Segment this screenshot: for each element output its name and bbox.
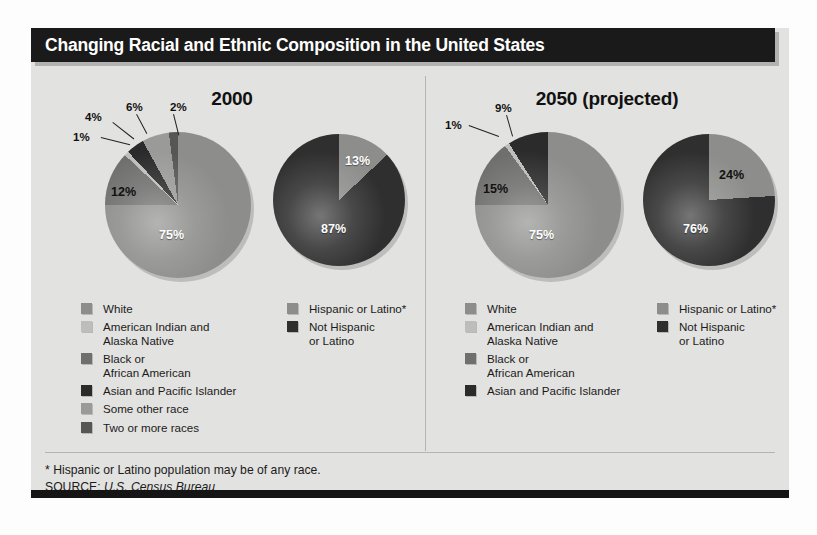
legend-item[interactable]: Black or African American [465, 352, 655, 379]
callout-2000-asian-pacific: 4% [85, 111, 102, 123]
pie-2050-race: 75% 15% [475, 132, 621, 278]
swatch-hispanic-icon [287, 303, 298, 314]
swatch-black-african-icon [81, 353, 92, 364]
pie-2050-race-label-black: 15% [483, 182, 508, 196]
callout-2000-american-indian: 1% [73, 131, 90, 143]
legend-label: Not Hispanic or Latino [309, 320, 427, 347]
footnote-rule [45, 452, 775, 453]
legend-item[interactable]: American Indian and Alaska Native [465, 320, 655, 347]
leader-line-some-other [136, 114, 147, 134]
legend-2000-race: White American Indian and Alaska Native … [81, 302, 271, 439]
panel-2050: 2050 (projected) 75% 15% 1% 9% 24% 76% [427, 74, 787, 452]
legend-item[interactable]: Black or African American [81, 352, 271, 379]
pie-2050-eth-label-hispanic: 24% [719, 168, 744, 182]
legend-label: Some other race [103, 402, 271, 415]
legend-item[interactable]: White [465, 302, 655, 315]
leader-line-asian-pacific [506, 115, 513, 136]
legend-label: Asian and Pacific Islander [103, 384, 271, 397]
legend-label: Hispanic or Latino* [679, 302, 797, 315]
pie-2000-ethnicity: 13% 87% [273, 134, 405, 266]
swatch-some-other-race-icon [81, 403, 92, 414]
legend-item[interactable]: Not Hispanic or Latino [657, 320, 797, 347]
legend-item[interactable]: Some other race [81, 402, 271, 415]
legend-label: Asian and Pacific Islander [487, 384, 655, 397]
legend-label: Hispanic or Latino* [309, 302, 427, 315]
swatch-asian-pacific-icon [81, 385, 92, 396]
callout-2050-asian-pacific: 9% [495, 102, 512, 114]
swatch-not-hispanic-icon [657, 321, 668, 332]
pie-2000-eth-label-hispanic: 13% [345, 154, 370, 168]
swatch-two-or-more-races-icon [81, 422, 92, 433]
legend-label: White [103, 302, 271, 315]
legend-item[interactable]: White [81, 302, 271, 315]
legend-item[interactable]: Two or more races [81, 421, 271, 434]
title-bar: Changing Racial and Ethnic Composition i… [31, 28, 775, 62]
swatch-american-indian-icon [465, 321, 476, 332]
legend-item[interactable]: Asian and Pacific Islander [465, 384, 655, 397]
swatch-white-icon [81, 303, 92, 314]
swatch-hispanic-icon [657, 303, 668, 314]
legend-item[interactable]: Hispanic or Latino* [287, 302, 427, 315]
source-label: SOURCE: [45, 480, 101, 494]
source-value: U.S. Census Bureau [104, 480, 215, 494]
panel-2050-heading: 2050 (projected) [427, 88, 787, 110]
swatch-white-icon [465, 303, 476, 314]
page-title: Changing Racial and Ethnic Composition i… [45, 35, 545, 56]
legend-item[interactable]: Not Hispanic or Latino [287, 320, 427, 347]
legend-2050-ethnicity: Hispanic or Latino* Not Hispanic or Lati… [657, 302, 797, 352]
swatch-asian-pacific-icon [465, 385, 476, 396]
pie-2050-ethnicity: 24% 76% [643, 134, 775, 266]
swatch-not-hispanic-icon [287, 321, 298, 332]
callout-2050-american-indian: 1% [445, 119, 462, 131]
swatch-american-indian-icon [81, 321, 92, 332]
pie-2050-race-label-white: 75% [529, 228, 554, 242]
legend-2000-ethnicity: Hispanic or Latino* Not Hispanic or Lati… [287, 302, 427, 352]
pie-disc [475, 132, 621, 278]
swatch-black-african-icon [465, 353, 476, 364]
leader-line-american-indian [101, 137, 130, 145]
legend-item[interactable]: American Indian and Alaska Native [81, 320, 271, 347]
callout-2000-some-other: 6% [126, 101, 143, 113]
infographic-page: Changing Racial and Ethnic Composition i… [0, 0, 817, 535]
legend-2050-race: White American Indian and Alaska Native … [465, 302, 655, 402]
pie-2000-race: 75% 12% [105, 132, 251, 278]
legend-label: Two or more races [103, 421, 271, 434]
footnote-text: * Hispanic or Latino population may be o… [45, 462, 321, 479]
pie-disc [643, 134, 775, 266]
panel-2000-heading: 2000 [39, 88, 425, 110]
panel-2000: 2000 75% 12% 1% 4% 6% 2% [39, 74, 425, 452]
panel-divider [425, 76, 426, 451]
infographic-card: Changing Racial and Ethnic Composition i… [31, 28, 789, 490]
footnote-block: * Hispanic or Latino population may be o… [45, 462, 321, 495]
legend-item[interactable]: Hispanic or Latino* [657, 302, 797, 315]
pie-2000-race-label-black: 12% [111, 185, 136, 199]
leader-line-american-indian [469, 125, 499, 137]
legend-label: American Indian and Alaska Native [487, 320, 655, 347]
pie-2050-eth-label-not-hispanic: 76% [683, 222, 708, 236]
pie-2000-race-label-white: 75% [159, 228, 184, 242]
leader-line-asian-pacific [112, 122, 134, 139]
legend-item[interactable]: Asian and Pacific Islander [81, 384, 271, 397]
legend-label: Black or African American [103, 352, 271, 379]
pie-2000-eth-label-not-hispanic: 87% [321, 222, 346, 236]
legend-label: Not Hispanic or Latino [679, 320, 797, 347]
pie-disc [105, 132, 251, 278]
callout-2000-two-or-more: 2% [170, 101, 187, 113]
source-line: SOURCE: U.S. Census Bureau [45, 479, 321, 496]
legend-label: American Indian and Alaska Native [103, 320, 271, 347]
legend-label: Black or African American [487, 352, 655, 379]
legend-label: White [487, 302, 655, 315]
pie-disc [273, 134, 405, 266]
